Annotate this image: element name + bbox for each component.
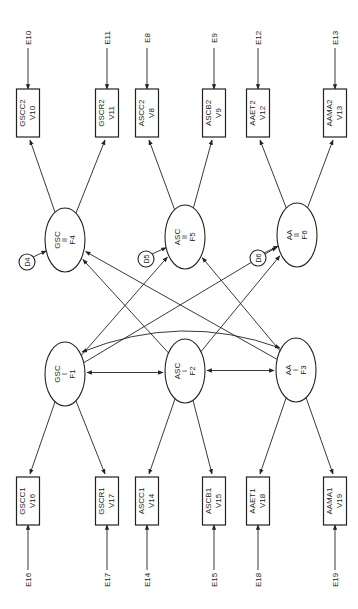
loading-path	[260, 398, 286, 474]
indicator-name: GSCC2	[18, 99, 27, 127]
loading-path	[260, 140, 286, 208]
edges-layer	[28, 48, 335, 570]
indicator-name: AAMA2	[325, 99, 334, 127]
disturbance-d6: D6	[250, 250, 266, 266]
indicator-name: GSCR2	[97, 99, 106, 127]
factor-f5: ASCIIF5	[165, 205, 205, 269]
indicator-variable: V10	[28, 105, 37, 120]
factor-label: F5	[188, 232, 197, 242]
loading-path	[193, 400, 212, 474]
indicator-name: AAMA1	[325, 487, 334, 515]
indicator-variable: V18	[258, 493, 267, 508]
indicator-gscc1: GSCC1V16	[17, 477, 40, 525]
indicator-name: ASCC1	[137, 487, 146, 514]
factor-time: I	[61, 373, 68, 375]
loading-path	[76, 401, 105, 474]
indicator-name: ASCC2	[137, 99, 146, 126]
factor-f3: AAIF3	[276, 338, 316, 402]
indicator-name: ASCB2	[204, 99, 213, 126]
error-label-e15: E15	[210, 572, 219, 587]
loading-path	[306, 398, 333, 474]
factor-time: II	[61, 238, 68, 242]
disturbance-path	[264, 246, 278, 253]
loading-path	[30, 140, 55, 212]
indicator-name: GSCR1	[97, 487, 106, 515]
factor-label: F6	[300, 230, 309, 240]
error-label-e14: E14	[143, 572, 152, 587]
error-label-e11: E11	[103, 31, 112, 45]
indicator-variable: V12	[258, 105, 267, 120]
factor-f4: GSCIIF4	[45, 208, 85, 272]
error-label-e16: E16	[24, 572, 33, 587]
factor-label: F4	[68, 235, 77, 245]
indicator-variable: V19	[335, 493, 344, 508]
loading-path	[308, 140, 333, 208]
indicator-variable: V17	[107, 493, 116, 508]
indicator-name: AAET1	[248, 488, 257, 514]
indicator-variable: V8	[147, 108, 156, 118]
indicator-aaet2: AAET2V12	[247, 89, 270, 137]
indicator-variable: V14	[147, 493, 156, 508]
factor-label: F2	[188, 366, 197, 376]
error-label-e9: E9	[210, 33, 219, 43]
indicator-ascb1: ASCB1V15	[203, 477, 226, 525]
error-label-e18: E18	[254, 572, 263, 587]
indicator-name: AAET2	[248, 100, 257, 126]
indicator-ascc2: ASCC2V8	[136, 89, 159, 137]
factor-time: II	[293, 233, 300, 237]
factor-label: F1	[68, 369, 77, 379]
indicator-gscr2: GSCR2V11	[96, 89, 119, 137]
indicator-aama1: AAMA1V19	[324, 477, 347, 525]
disturbance-d5: D5	[138, 251, 154, 267]
disturbance-label: D4	[24, 257, 31, 266]
indicator-name: GSCC1	[18, 487, 27, 515]
factor-label: F3	[299, 365, 308, 375]
labels-layer: E10E11E8E9E12E13E16E17E14E15E18E19	[24, 30, 340, 587]
factor-time: I	[181, 370, 188, 372]
disturbance-label: D5	[143, 254, 150, 263]
indicator-variable: V16	[28, 493, 37, 508]
indicator-name: ASCB1	[204, 487, 213, 514]
loading-path	[30, 402, 55, 474]
loading-path	[149, 140, 175, 210]
factor-time: II	[181, 235, 188, 239]
indicator-variable: V11	[107, 106, 116, 120]
indicator-gscr1: GSCR1V17	[96, 477, 119, 525]
loading-path	[76, 140, 105, 213]
error-label-e17: E17	[103, 572, 112, 587]
loading-path	[193, 140, 212, 208]
error-label-e10: E10	[24, 30, 33, 45]
factor-time: I	[292, 369, 299, 371]
factor-f6: AAIIF6	[277, 203, 317, 267]
indicator-aama2: AAMA2V13	[324, 89, 347, 137]
factor-f2: ASCIF2	[165, 339, 205, 403]
factor-f1: GSCIF1	[45, 342, 85, 406]
indicator-gscc2: GSCC2V10	[17, 89, 40, 137]
error-label-e13: E13	[331, 30, 340, 45]
error-label-e8: E8	[143, 33, 152, 43]
disturbance-path	[152, 248, 166, 254]
indicator-variable: V9	[214, 108, 223, 118]
indicator-variable: V13	[335, 105, 344, 120]
disturbance-d4: D4	[19, 254, 35, 270]
nodes-layer: GSCC2V10GSCR2V11ASCC2V8ASCB2V9AAET2V12AA…	[17, 89, 347, 525]
error-label-e12: E12	[254, 30, 263, 45]
loading-path	[149, 399, 175, 474]
indicator-variable: V15	[214, 493, 223, 508]
error-label-e19: E19	[331, 572, 340, 587]
disturbance-path	[33, 251, 46, 257]
indicator-aaet1: AAET1V18	[247, 477, 270, 525]
indicator-ascc1: ASCC1V14	[136, 477, 159, 525]
disturbance-label: D6	[255, 253, 262, 262]
sem-path-diagram: GSCC2V10GSCR2V11ASCC2V8ASCB2V9AAET2V12AA…	[0, 0, 358, 609]
indicator-ascb2: ASCB2V9	[203, 89, 226, 137]
